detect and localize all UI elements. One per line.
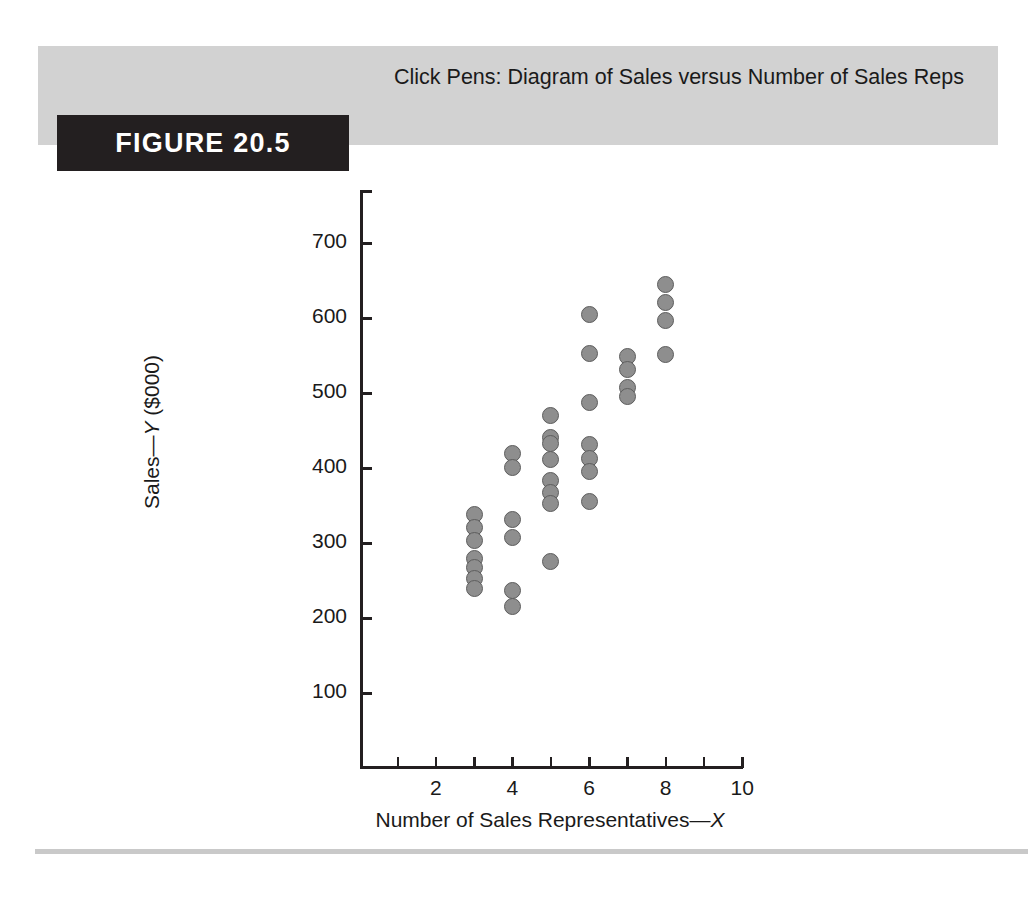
x-axis-tick	[397, 757, 400, 768]
scatter-plot: 100200300400500600700 246810 Sales—Y ($0…	[0, 0, 1036, 903]
scatter-point	[619, 361, 636, 378]
scatter-point	[542, 435, 559, 452]
scatter-point	[504, 529, 521, 546]
scatter-point	[581, 493, 598, 510]
scatter-point	[581, 463, 598, 480]
x-axis-title-text: Number of Sales Representatives—X	[375, 808, 724, 831]
scatter-point	[466, 580, 483, 597]
y-axis-tick	[361, 242, 372, 245]
x-axis-tick	[473, 757, 476, 768]
y-axis-tick-label: 700	[295, 229, 347, 253]
scatter-point	[504, 582, 521, 599]
y-axis-tick	[361, 692, 372, 695]
axis-variable-symbol: X	[710, 808, 724, 831]
y-axis-tick	[361, 542, 372, 545]
scatter-point	[504, 459, 521, 476]
scatter-point	[657, 346, 674, 363]
x-axis-tick	[550, 757, 553, 768]
y-axis-tick	[361, 317, 372, 320]
scatter-point	[657, 294, 674, 311]
scatter-point	[504, 598, 521, 615]
y-axis-tick-label: 600	[295, 304, 347, 328]
scatter-point	[619, 388, 636, 405]
figure-footer-rule	[35, 849, 1028, 854]
x-axis-tick	[626, 757, 629, 768]
y-axis-line	[360, 190, 363, 768]
y-axis-tick-label: 300	[295, 529, 347, 553]
scatter-point	[581, 345, 598, 362]
scatter-point	[542, 495, 559, 512]
x-axis-tick	[741, 757, 744, 768]
x-axis-tick-label: 8	[646, 776, 686, 800]
x-axis-tick-label: 4	[492, 776, 532, 800]
x-axis-tick	[665, 757, 668, 768]
x-axis-tick	[588, 757, 591, 768]
y-axis-tick-label: 200	[295, 604, 347, 628]
y-axis-tick-label: 100	[295, 679, 347, 703]
scatter-point	[657, 276, 674, 293]
y-axis-tick-label: 400	[295, 454, 347, 478]
x-axis-tick-label: 10	[722, 776, 762, 800]
scatter-point	[657, 312, 674, 329]
scatter-point	[581, 394, 598, 411]
y-axis-title-text: Sales—Y ($000)	[140, 355, 163, 509]
scatter-point	[542, 451, 559, 468]
y-axis-top-cap	[361, 190, 372, 193]
x-axis-tick	[703, 757, 706, 768]
figure-page: FIGURE 20.5 Click Pens: Diagram of Sales…	[0, 0, 1036, 903]
y-axis-tick	[361, 392, 372, 395]
scatter-point	[504, 511, 521, 528]
y-axis-tick-label: 500	[295, 379, 347, 403]
x-axis-tick	[435, 757, 438, 768]
scatter-point	[581, 306, 598, 323]
axis-variable-symbol: Y	[140, 422, 163, 436]
y-axis-title: Sales—Y ($000)	[140, 272, 164, 592]
scatter-point	[466, 532, 483, 549]
scatter-point	[542, 553, 559, 570]
x-axis-tick	[511, 757, 514, 768]
x-axis-tick-label: 2	[416, 776, 456, 800]
y-axis-tick	[361, 617, 372, 620]
x-axis-title: Number of Sales Representatives—X	[260, 808, 840, 832]
y-axis-tick	[361, 467, 372, 470]
x-axis-tick-label: 6	[569, 776, 609, 800]
scatter-point	[542, 407, 559, 424]
